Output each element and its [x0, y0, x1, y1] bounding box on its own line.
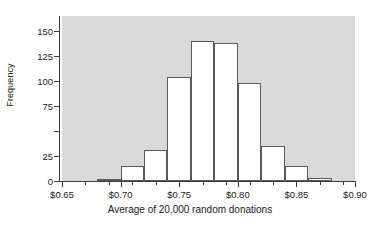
- x-tick-label: $0.70: [109, 189, 133, 200]
- x-minor-tick-mark: [273, 182, 274, 185]
- x-minor-tick-mark: [85, 182, 86, 185]
- histogram-bar: [308, 178, 331, 181]
- histogram-bar: [261, 146, 284, 181]
- y-tick-mark: [54, 31, 59, 32]
- y-tick-label: 25: [42, 151, 53, 162]
- y-tick-mark: [54, 81, 59, 82]
- plot-area: [62, 16, 355, 181]
- x-tick-label: $0.80: [226, 189, 250, 200]
- x-tick-mark: [121, 182, 122, 187]
- y-axis-title: Frequency: [2, 0, 18, 170]
- x-tick-label: $0.65: [50, 189, 74, 200]
- x-minor-tick-mark: [203, 182, 204, 185]
- y-axis-title-text: Frequency: [5, 63, 15, 106]
- x-axis-title: Average of 20,000 random donations: [0, 204, 380, 215]
- x-minor-tick-mark: [109, 182, 110, 185]
- y-tick-label: 125: [37, 51, 53, 62]
- y-tick-label: 0: [48, 176, 53, 187]
- x-minor-tick-mark: [226, 182, 227, 185]
- histogram-bar: [191, 41, 214, 181]
- histogram-bar: [167, 77, 190, 181]
- x-tick-label: $0.85: [285, 189, 309, 200]
- histogram-figure: Frequency 02575100125150 Average of 20,0…: [0, 0, 380, 226]
- x-minor-tick-mark: [132, 182, 133, 185]
- y-tick-mark: [54, 131, 59, 132]
- histogram-bar: [97, 179, 120, 181]
- y-tick-label: 75: [42, 101, 53, 112]
- x-tick-label: $0.75: [167, 189, 191, 200]
- x-tick-mark: [355, 182, 356, 187]
- y-tick-mark: [54, 106, 59, 107]
- x-axis-line: [59, 181, 356, 182]
- y-tick-label: 100: [37, 76, 53, 87]
- y-tick-mark: [54, 56, 59, 57]
- y-tick-mark: [54, 156, 59, 157]
- y-tick-mark: [54, 181, 59, 182]
- x-tick-label: $0.90: [343, 189, 367, 200]
- x-minor-tick-mark: [343, 182, 344, 185]
- x-minor-tick-mark: [250, 182, 251, 185]
- x-tick-mark: [62, 182, 63, 187]
- histogram-bar: [285, 166, 308, 181]
- x-tick-mark: [179, 182, 180, 187]
- x-tick-mark: [238, 182, 239, 187]
- x-tick-mark: [296, 182, 297, 187]
- x-axis-title-text: Average of 20,000 random donations: [108, 204, 272, 215]
- histogram-bar: [121, 166, 144, 181]
- y-tick-label: 150: [37, 26, 53, 37]
- histogram-bar: [238, 83, 261, 181]
- histogram-bar: [214, 43, 237, 181]
- x-minor-tick-mark: [320, 182, 321, 185]
- histogram-bar: [144, 150, 167, 181]
- y-axis-line: [59, 16, 60, 182]
- x-minor-tick-mark: [156, 182, 157, 185]
